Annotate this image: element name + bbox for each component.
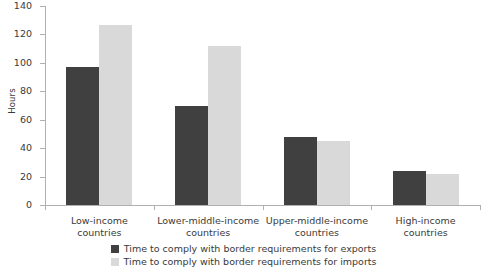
legend-label: Time to comply with border requirements … xyxy=(124,243,376,254)
bar-imports-2 xyxy=(208,46,241,205)
y-axis-tick: 80 xyxy=(40,91,45,92)
x-axis-tick xyxy=(45,205,46,210)
x-axis-tick xyxy=(371,205,372,210)
y-axis-tick-label: 100 xyxy=(0,57,32,68)
legend-item-2[interactable]: Time to comply with border requirements … xyxy=(111,256,377,267)
legend-swatch-icon xyxy=(111,258,119,266)
bar-imports-1 xyxy=(99,25,132,205)
y-axis-tick: 120 xyxy=(40,34,45,35)
x-axis-tick xyxy=(154,205,155,210)
category-label-line-1: Upper-middle-income xyxy=(263,215,372,227)
y-axis-tick-label: 60 xyxy=(0,114,32,125)
legend-item-1[interactable]: Time to comply with border requirements … xyxy=(111,243,376,254)
bar-exports-2 xyxy=(175,106,208,205)
y-axis-line xyxy=(45,6,46,205)
category-label-line-2: countries xyxy=(263,227,372,239)
category-label-line-2: countries xyxy=(154,227,263,239)
y-axis-tick: 40 xyxy=(40,148,45,149)
bar-exports-4 xyxy=(393,171,426,205)
y-axis-tick: 100 xyxy=(40,63,45,64)
bar-imports-4 xyxy=(426,174,459,205)
y-axis-tick-label: 40 xyxy=(0,142,32,153)
legend-label: Time to comply with border requirements … xyxy=(124,256,377,267)
y-axis-tick-label: 80 xyxy=(0,85,32,96)
x-axis-category-label: Upper-middle-incomecountries xyxy=(263,215,372,238)
category-label-line-1: Lower-middle-income xyxy=(154,215,263,227)
x-axis-category-label: Low-incomecountries xyxy=(45,215,154,238)
x-axis-tick xyxy=(480,205,481,210)
x-axis-tick xyxy=(263,205,264,210)
y-axis-tick: 140 xyxy=(40,6,45,7)
y-axis-tick-label: 20 xyxy=(0,171,32,182)
x-axis-category-label: High-incomecountries xyxy=(371,215,480,238)
y-axis-tick: 20 xyxy=(40,177,45,178)
x-axis-category-label: Lower-middle-incomecountries xyxy=(154,215,263,238)
y-axis-tick-label: 120 xyxy=(0,28,32,39)
category-label-line-2: countries xyxy=(45,227,154,239)
category-label-line-1: High-income xyxy=(371,215,480,227)
bar-exports-1 xyxy=(66,67,99,205)
chart-legend: Time to comply with border requirements … xyxy=(0,243,487,267)
bar-exports-3 xyxy=(284,137,317,205)
legend-swatch-icon xyxy=(111,245,119,253)
y-axis-tick-label: 140 xyxy=(0,0,32,11)
y-axis-tick: 60 xyxy=(40,120,45,121)
bar-imports-3 xyxy=(317,141,350,205)
plot-area: 140120100806040200 Low-incomecountriesLo… xyxy=(45,6,480,205)
category-label-line-1: Low-income xyxy=(45,215,154,227)
y-axis-tick-label: 0 xyxy=(0,199,32,210)
bar-chart: Hours 140120100806040200 Low-incomecount… xyxy=(0,0,487,273)
category-label-line-2: countries xyxy=(371,227,480,239)
